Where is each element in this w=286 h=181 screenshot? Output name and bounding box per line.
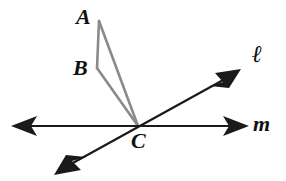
line-label-m: m bbox=[253, 113, 270, 135]
segment-ac bbox=[99, 21, 138, 126]
segment-ab bbox=[97, 21, 99, 68]
line-m-group bbox=[11, 116, 249, 136]
line-l-arrowhead-lower-left bbox=[54, 155, 86, 175]
geometry-figure: A B C ℓ m bbox=[0, 0, 286, 181]
line-l-shaft bbox=[62, 74, 234, 169]
segment-bc bbox=[97, 68, 138, 126]
gray-triangle-group bbox=[97, 21, 138, 126]
line-l-group bbox=[54, 69, 241, 175]
point-label-c: C bbox=[131, 130, 146, 152]
line-l-arrowhead-upper-right bbox=[210, 69, 241, 88]
figure-canvas bbox=[0, 0, 286, 181]
point-label-b: B bbox=[73, 57, 88, 79]
point-label-a: A bbox=[76, 6, 91, 28]
line-label-ell: ℓ bbox=[252, 42, 262, 66]
